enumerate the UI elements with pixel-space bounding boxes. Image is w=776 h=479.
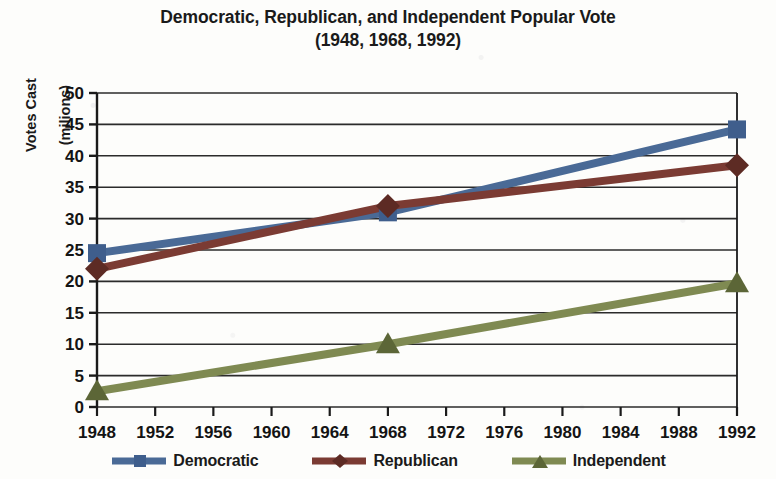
legend-swatch-democratic (110, 453, 168, 469)
legend-item-independent[interactable]: Independent (510, 452, 666, 470)
y-tick-label: 30 (65, 210, 84, 229)
x-tick-label: 1968 (369, 423, 407, 442)
x-tick-label: 1956 (194, 423, 232, 442)
y-tick-label: 25 (65, 241, 84, 260)
legend-label-republican: Republican (373, 452, 457, 470)
x-tick-label: 1948 (78, 423, 116, 442)
x-tick-label: 1960 (253, 423, 291, 442)
y-tick-label: 20 (65, 272, 84, 291)
series-line-republican (97, 165, 737, 269)
legend-label-democratic: Democratic (173, 452, 258, 470)
series-line-democratic (97, 129, 737, 253)
y-tick-label: 45 (65, 115, 84, 134)
legend-swatch-republican (310, 453, 368, 469)
y-tick-label: 35 (65, 178, 84, 197)
y-tick-label: 50 (65, 84, 84, 103)
x-tick-label: 1992 (718, 423, 756, 442)
legend-label-independent: Independent (573, 452, 666, 470)
x-tick-label: 1988 (660, 423, 698, 442)
x-tick-label: 1976 (485, 423, 523, 442)
x-tick-label: 1952 (136, 423, 174, 442)
legend-item-democratic[interactable]: Democratic (110, 452, 258, 470)
chart-legend: Democratic Republican Independent (0, 452, 776, 470)
y-tick-label: 10 (65, 335, 84, 354)
line-chart-svg: 0510152025303540455019481952195619601964… (0, 0, 776, 479)
data-point-democratic (728, 120, 746, 138)
data-point-republican (725, 153, 749, 177)
y-tick-label: 0 (75, 398, 84, 417)
x-tick-label: 1972 (427, 423, 465, 442)
legend-swatch-independent (510, 453, 568, 469)
x-tick-label: 1980 (544, 423, 582, 442)
y-tick-label: 5 (75, 367, 84, 386)
x-tick-label: 1964 (311, 423, 349, 442)
chart-plot-area: 0510152025303540455019481952195619601964… (0, 0, 776, 479)
x-tick-label: 1984 (602, 423, 640, 442)
y-tick-label: 15 (65, 304, 84, 323)
y-tick-label: 40 (65, 147, 84, 166)
legend-item-republican[interactable]: Republican (310, 452, 457, 470)
